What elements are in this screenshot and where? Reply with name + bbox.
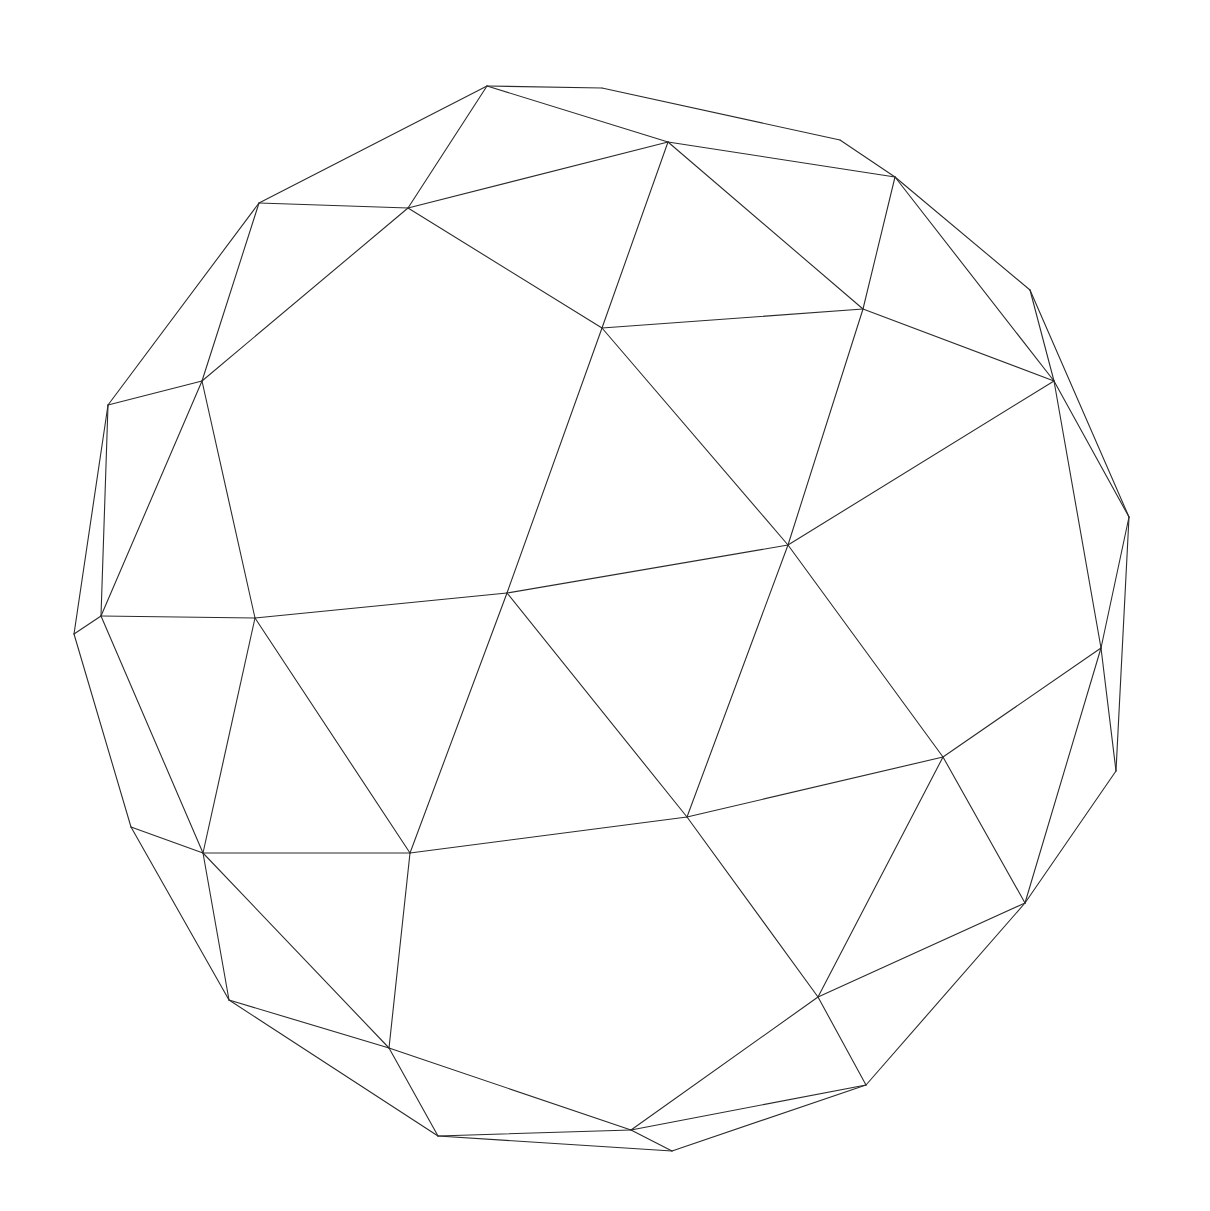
edge-AH-I: [631, 1085, 866, 1130]
edge-AA-AB: [943, 648, 1101, 757]
edge-AF-AD: [389, 853, 410, 1048]
edge-D-U: [895, 177, 1054, 381]
edge-AC-AG: [687, 817, 818, 997]
edge-F-G: [1116, 517, 1129, 771]
edge-A-Q: [408, 86, 487, 208]
edge-Q-V: [202, 208, 408, 381]
edge-AE-M: [131, 827, 203, 853]
edge-O-P: [108, 203, 259, 405]
edge-P-A: [259, 86, 487, 203]
edge-P-Q: [259, 203, 408, 208]
edge-H-I: [866, 903, 1025, 1085]
edge-D-E: [895, 177, 1030, 290]
edge-A-B: [487, 86, 602, 88]
edge-Z-AB: [788, 545, 943, 757]
edge-AB-AG: [818, 757, 943, 997]
edge-AD-AC: [410, 817, 687, 853]
edge-N-W: [74, 616, 101, 634]
edge-A-R: [487, 86, 668, 142]
edge-S-Z: [602, 328, 788, 545]
edge-W-AE: [101, 616, 203, 853]
edge-W-X: [101, 616, 255, 618]
edge-E-F: [1030, 290, 1129, 517]
edge-AG-I: [818, 997, 866, 1085]
edge-M-N: [74, 634, 131, 827]
edge-U-AA: [1054, 381, 1101, 648]
edge-T-S: [602, 309, 863, 328]
edge-X-AD: [255, 618, 410, 853]
edge-Y-AD: [410, 593, 507, 853]
edge-AB-H: [943, 757, 1025, 903]
edge-O-V: [108, 381, 202, 405]
edge-Z-AC: [687, 545, 788, 817]
edge-X-Y: [255, 593, 507, 618]
edge-AH-J: [631, 1130, 672, 1151]
edge-T-Z: [788, 309, 863, 545]
edge-S-Y: [507, 328, 602, 593]
edge-AG-AH: [631, 997, 818, 1130]
geodesic-sphere-wireframe: [0, 0, 1210, 1211]
edge-Q-S: [408, 208, 602, 328]
edge-V-W: [101, 381, 202, 616]
edge-G-H: [1025, 771, 1116, 903]
edge-O-W: [101, 405, 108, 616]
edge-D-T: [863, 177, 895, 309]
edge-K-L: [229, 1000, 438, 1136]
edge-V-X: [202, 381, 255, 618]
wireframe-edges: [74, 86, 1129, 1151]
edge-J-K: [438, 1136, 672, 1151]
edge-G-AA: [1101, 648, 1116, 771]
edge-AH-AF: [389, 1048, 631, 1130]
edge-C-D: [840, 140, 895, 177]
edge-R-S: [602, 142, 668, 328]
edge-Q-R: [408, 142, 668, 208]
edge-Y-AC: [507, 593, 687, 817]
edge-U-F: [1054, 381, 1129, 517]
edge-P-V: [202, 203, 259, 381]
edge-I-J: [672, 1085, 866, 1151]
edge-AF-AE: [203, 853, 389, 1048]
edge-F-AA: [1101, 517, 1129, 648]
edge-AG-H: [818, 903, 1025, 997]
edge-Z-U: [788, 381, 1054, 545]
edge-AC-AB: [687, 757, 943, 817]
edge-H-AA: [1025, 648, 1101, 903]
edge-X-AE: [203, 618, 255, 853]
edge-Y-Z: [507, 545, 788, 593]
edge-AH-K: [438, 1130, 631, 1136]
edge-AF-K: [389, 1048, 438, 1136]
edge-N-O: [74, 405, 108, 634]
edge-AF-L: [229, 1000, 389, 1048]
